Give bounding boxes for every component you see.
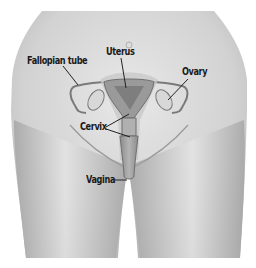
anatomy-diagram: Fallopian tube Uterus Ovary Cervix Vagin… bbox=[0, 0, 256, 268]
label-vagina: Vagina bbox=[86, 174, 115, 186]
label-ovary: Ovary bbox=[182, 66, 207, 78]
pelvis-illustration bbox=[0, 0, 256, 268]
label-fallopian-tube: Fallopian tube bbox=[27, 55, 87, 67]
label-uterus: Uterus bbox=[106, 46, 134, 58]
cervix bbox=[122, 118, 136, 136]
label-cervix: Cervix bbox=[80, 121, 107, 133]
